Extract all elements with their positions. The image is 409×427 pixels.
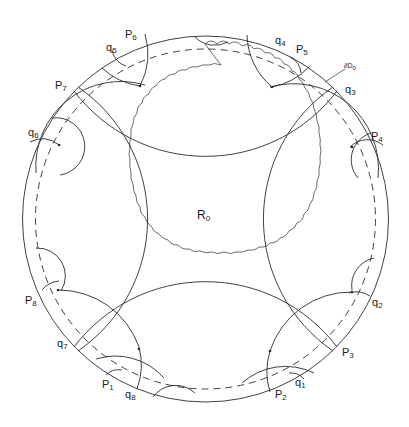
- label-q1: q1: [295, 377, 306, 390]
- small-arc-bottom: [153, 385, 195, 397]
- vertex-dot-lower-left: [57, 289, 60, 292]
- arc-upper-left-a: [36, 81, 145, 173]
- vertex-dot-right: [351, 146, 354, 149]
- geodesic-arc-bottom: [74, 282, 337, 347]
- arc-upper-left-b: [102, 68, 140, 86]
- label-p8: P8: [25, 295, 37, 308]
- label-p1: P1: [102, 379, 114, 392]
- arc-lower-left-c: [137, 347, 141, 389]
- label-q5: q5: [106, 42, 117, 55]
- arc-lower-right-c: [267, 351, 270, 392]
- small-arc-p8-a: [36, 248, 65, 291]
- label-q7: q7: [57, 338, 68, 351]
- label-p6: P6: [125, 29, 137, 42]
- label-p5: P5: [296, 44, 308, 57]
- vertex-dot-bottom-left: [138, 348, 141, 351]
- small-arc-p3-a: [352, 258, 374, 290]
- boundary-label-dd0: ∂D0: [344, 62, 356, 71]
- geodesic-arc-left: [78, 87, 148, 351]
- label-p7: P7: [55, 80, 67, 93]
- arc-upper-right-a: [270, 84, 379, 178]
- vertex-dot-left: [58, 144, 61, 147]
- arc-upper-left-c: [140, 34, 148, 86]
- region-label-r0: R0: [197, 209, 210, 223]
- boundary-label-pointer: [325, 69, 345, 82]
- label-p2: P2: [275, 389, 287, 402]
- label-p4: P4: [371, 131, 383, 144]
- label-p3: P3: [342, 347, 354, 360]
- vertex-dot-bottom-right: [269, 350, 272, 353]
- vertex-dot-lower-right: [351, 291, 354, 294]
- label-q6: q6: [28, 127, 39, 140]
- label-q3: q3: [345, 84, 356, 97]
- geodesic-arc-top: [74, 91, 337, 156]
- label-q8: q8: [125, 389, 136, 402]
- label-q2: q2: [372, 297, 383, 310]
- vertex-dot-top-right: [271, 86, 274, 89]
- vertex-dot-top: [139, 85, 142, 88]
- label-q4: q4: [275, 35, 286, 48]
- small-arc-p7-a: [52, 118, 85, 175]
- geodesic-arc-right: [263, 87, 333, 351]
